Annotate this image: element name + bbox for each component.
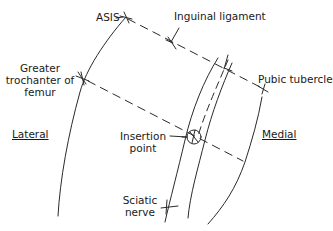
inguinal-ligament-dashed-line <box>128 19 262 88</box>
pubic-tubercle-label: Pubic tubercle <box>258 73 333 85</box>
medial-label: Medial <box>262 128 296 140</box>
greater-trochanter-label-line3: femur <box>2 86 78 98</box>
asis-label: ASIS <box>96 11 120 23</box>
greater-trochanter-label-line1: Greater <box>2 62 78 74</box>
femoral-dashed-centerline <box>198 60 228 136</box>
sciatic-nerve-label: Sciatic nerve <box>120 194 160 218</box>
inguinal-ligament-label: Inguinal ligament <box>174 10 266 22</box>
sciatic-nerve-tick <box>166 200 167 214</box>
insertion-point-label: Insertion point <box>118 130 168 154</box>
insertion-point-label-line2: point <box>118 142 168 154</box>
pubic-tubercle-cross-marker <box>258 84 268 94</box>
lateral-label: Lateral <box>12 128 49 140</box>
medial-thigh-outline <box>208 97 262 224</box>
sciatic-nerve-label-line1: Sciatic <box>120 194 160 206</box>
sciatic-nerve-label-line2: nerve <box>120 206 160 218</box>
greater-trochanter-label-line2: trochanter of <box>2 74 78 86</box>
greater-trochanter-label: Greater trochanter of femur <box>2 62 78 98</box>
inguinal-ligament-marker <box>166 28 179 49</box>
insertion-point-label-line1: Insertion <box>118 130 168 142</box>
sciatic-nerve-leader <box>161 206 178 208</box>
insertion-point-leader <box>170 136 187 137</box>
lateral-thigh-outline <box>58 17 126 216</box>
femoral-outline-medial <box>188 63 232 218</box>
